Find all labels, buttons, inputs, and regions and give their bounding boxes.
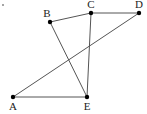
segment-CE: [87, 13, 91, 97]
label-D: D: [135, 0, 143, 10]
point-A: [11, 95, 15, 99]
label-E: E: [84, 100, 91, 112]
label-B: B: [43, 7, 50, 19]
point-B: [48, 20, 52, 24]
label-A: A: [9, 100, 17, 112]
segments: [13, 13, 139, 97]
point-D: [137, 11, 141, 15]
segment-BE: [50, 22, 87, 97]
segment-BC: [50, 13, 91, 22]
label-C: C: [87, 0, 94, 10]
point-C: [89, 11, 93, 15]
point-E: [85, 95, 89, 99]
segment-DA: [13, 13, 139, 97]
geometry-diagram: A B C D E: [0, 0, 147, 114]
labels: A B C D E: [9, 0, 143, 112]
stray-mark: [2, 4, 4, 6]
